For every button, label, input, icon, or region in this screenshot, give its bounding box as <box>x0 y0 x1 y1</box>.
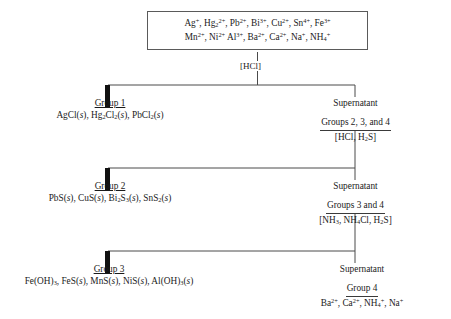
supernatant-2-head: Supernatant <box>283 180 428 192</box>
supernatant-3-node: Supernatant Group 4 Ba2+, Ca2+, NH4+, Na… <box>288 263 436 309</box>
group-2-title: Group 2 <box>20 180 200 192</box>
supernatant-3-groups: Group 4 <box>346 282 379 296</box>
supernatant-3-head: Supernatant <box>288 263 436 275</box>
supernatant-1-groups: Groups 2, 3, and 4 <box>320 116 391 130</box>
supernatant-1-reagent: [HCl, H2S] <box>288 131 423 144</box>
supernatant-1-node: Supernatant Groups 2, 3, and 4 [HCl, H2S… <box>288 97 423 143</box>
reagent-label-hcl: [HCl] <box>238 61 263 71</box>
group-2-formulas: PbS(s), CuS(s), Bi2S3(s), SnS2(s) <box>20 192 200 205</box>
group-2-node: Group 2 PbS(s), CuS(s), Bi2S3(s), SnS2(s… <box>20 180 200 205</box>
group-3-formulas: Fe(OH)3, FeS(s), MnS(s), NiS(s), Al(OH)3… <box>5 275 213 288</box>
supernatant-3-ions: Ba2+, Ca2+, NH4+, Na+ <box>288 297 436 310</box>
supernatant-2-groups: Groups 3 and 4 <box>326 199 385 213</box>
group-1-formulas: AgCl(s), Hg2Cl2(s), PbCl2(s) <box>30 109 190 122</box>
sample-ion-line-2: Mn2+, Ni2+ Al3+, Ba2+, Ca2+, Na+, NH4+ <box>153 30 362 44</box>
supernatant-2-reagent: [NH3, NH4Cl, H2S] <box>283 214 428 227</box>
supernatant-1-head: Supernatant <box>288 97 423 109</box>
unknown-sample-box: Ag+, Hg22+, Pb2+, Bi3+, Cu2+, Sn4+, Fe3+… <box>147 11 368 50</box>
group-3-node: Group 3 Fe(OH)3, FeS(s), MnS(s), NiS(s),… <box>5 263 213 288</box>
group-3-title: Group 3 <box>5 263 213 275</box>
sample-ion-line-1: Ag+, Hg22+, Pb2+, Bi3+, Cu2+, Sn4+, Fe3+ <box>153 16 362 30</box>
group-1-node: Group 1 AgCl(s), Hg2Cl2(s), PbCl2(s) <box>30 97 190 122</box>
supernatant-2-node: Supernatant Groups 3 and 4 [NH3, NH4Cl, … <box>283 180 428 226</box>
group-1-title: Group 1 <box>30 97 190 109</box>
